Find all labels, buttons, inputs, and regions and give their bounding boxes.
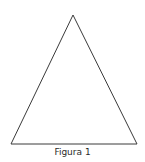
triangle-shape	[11, 15, 137, 144]
triangle-figure	[0, 0, 145, 162]
figure-caption: Figura 1	[0, 147, 145, 157]
